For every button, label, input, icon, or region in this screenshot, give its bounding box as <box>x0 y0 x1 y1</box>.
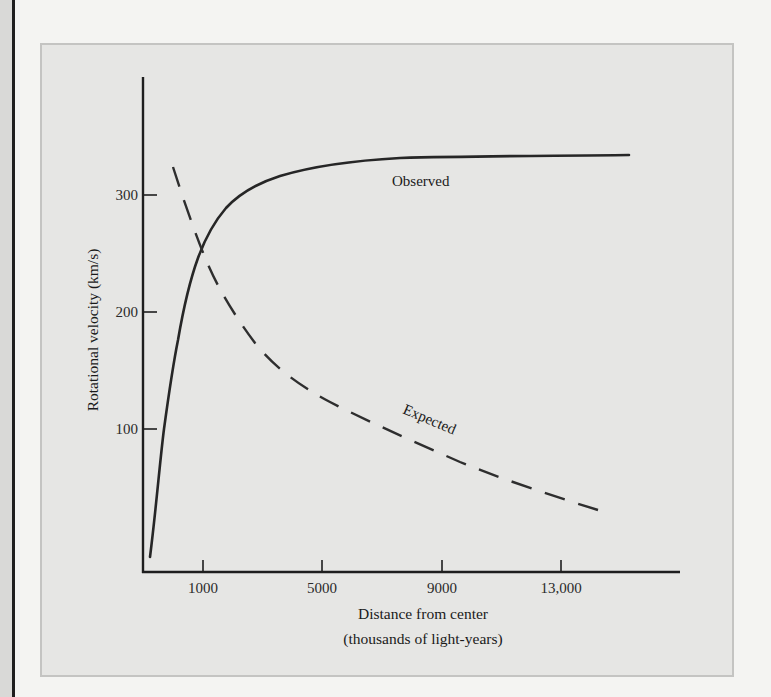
expected-label: Expected <box>401 401 459 438</box>
y-tick-label-100: 100 <box>116 421 139 437</box>
y-axis-title: Rotational velocity (km/s) <box>84 249 102 412</box>
y-ticks <box>143 195 157 429</box>
x-tick-label-13000: 13,000 <box>540 580 581 596</box>
x-axis-title-line2: (thousands of light-years) <box>343 630 502 648</box>
x-tick-label-9000: 9000 <box>427 580 457 596</box>
y-tick-label-200: 200 <box>116 304 139 320</box>
axes <box>142 77 680 573</box>
x-tick-label-5000: 5000 <box>307 580 337 596</box>
observed-label: Observed <box>392 173 450 189</box>
x-ticks <box>203 560 561 572</box>
expected-curve <box>173 167 598 510</box>
y-tick-label-300: 300 <box>116 187 139 203</box>
rotation-curve-chart: 300 200 100 1000 5000 9000 13,000 Observ… <box>0 0 771 697</box>
x-tick-label-1000: 1000 <box>188 580 218 596</box>
x-axis-title-line1: Distance from center <box>358 605 489 622</box>
